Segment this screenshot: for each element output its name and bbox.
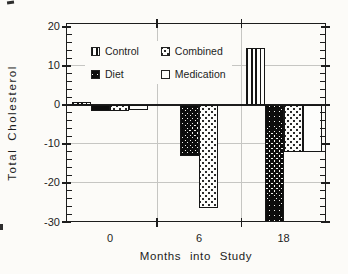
legend-item-control: Control [91,45,139,57]
x-tick-label: 0 [88,232,132,244]
y-minor-tick [67,81,72,82]
y-major-tick [62,26,71,28]
bar-combined-month-0 [110,105,129,111]
scan-artifact-mark [0,224,3,230]
bar-combined-month-6 [199,105,218,208]
legend-swatch-diet [91,70,100,79]
y-minor-tick [67,198,72,199]
y-minor-tick [320,159,325,160]
y-minor-tick [320,58,325,59]
y-minor-tick [67,159,72,160]
y-major-tick [321,182,330,184]
y-minor-tick [320,136,325,137]
bar-combined-month-18 [284,105,303,152]
x-top-tick [241,19,243,28]
y-minor-tick [320,81,325,82]
x-tick-label: 18 [262,232,306,244]
legend-label: Combined [175,45,223,57]
y-minor-tick [67,136,72,137]
chart-legend: ControlDietCombinedMedication [85,41,232,84]
y-minor-tick [320,50,325,51]
y-major-tick [62,65,71,67]
y-minor-tick [320,198,325,199]
y-minor-tick [67,128,72,129]
bar-chart: Total Cholesterol 20100-10-20-300618 Con… [0,0,348,274]
y-minor-tick [67,112,72,113]
y-minor-tick [320,34,325,35]
bar-control-month-18 [246,48,265,105]
y-minor-tick [67,214,72,215]
y-minor-tick [67,97,72,98]
y-major-tick [62,143,71,145]
y-major-tick [321,65,330,67]
y-major-tick [62,104,71,106]
legend-label: Diet [105,68,124,80]
y-tick-label: 0 [30,99,60,110]
y-minor-tick [67,206,72,207]
y-major-tick [321,143,330,145]
legend-label: Control [105,45,139,57]
legend-swatch-medication [161,70,170,79]
y-axis-title-text: Total Cholesterol [6,65,18,181]
bar-diet-month-6 [180,105,199,156]
y-tick-label: -20 [30,177,60,188]
y-minor-tick [320,175,325,176]
x-bottom-tick [156,218,158,227]
y-major-tick [321,104,330,106]
bar-diet-month-0 [91,105,110,111]
y-minor-tick [67,175,72,176]
legend-label: Medication [175,68,226,80]
x-axis-title: Months into Study [66,250,326,262]
y-minor-tick [67,34,72,35]
y-axis-title: Total Cholesterol [6,23,18,222]
legend-swatch-control [91,47,100,56]
x-bottom-tick [241,218,243,227]
y-minor-tick [320,73,325,74]
y-minor-tick [320,128,325,129]
legend-item-combined: Combined [161,45,226,57]
legend-swatch-combined [161,47,170,56]
y-minor-tick [320,214,325,215]
y-minor-tick [67,190,72,191]
x-tick-label: 6 [177,232,221,244]
y-minor-tick [67,167,72,168]
y-major-tick [321,26,330,28]
bar-control-month-0 [72,102,91,105]
y-major-tick [62,182,71,184]
y-tick-label: 10 [30,60,60,71]
bar-diet-month-18 [265,105,284,222]
x-top-tick [156,19,158,28]
y-minor-tick [320,112,325,113]
y-tick-label: -10 [30,138,60,149]
y-major-tick [62,221,71,223]
y-minor-tick [320,151,325,152]
bar-medication-month-18 [303,105,322,152]
bar-medication-month-0 [129,105,148,110]
v-gridline [241,23,242,222]
y-minor-tick [67,42,72,43]
y-minor-tick [67,58,72,59]
y-minor-tick [67,89,72,90]
y-tick-label: -30 [30,217,60,228]
y-minor-tick [320,89,325,90]
y-minor-tick [67,73,72,74]
y-minor-tick [320,42,325,43]
y-major-tick [321,221,330,223]
y-minor-tick [67,151,72,152]
h-gridline [66,182,326,183]
y-tick-label: 20 [30,21,60,32]
y-minor-tick [320,206,325,207]
y-minor-tick [320,120,325,121]
y-minor-tick [67,120,72,121]
y-minor-tick [320,190,325,191]
legend-item-diet: Diet [91,68,139,80]
y-minor-tick [67,50,72,51]
y-minor-tick [320,167,325,168]
y-minor-tick [320,97,325,98]
legend-item-medication: Medication [161,68,226,80]
